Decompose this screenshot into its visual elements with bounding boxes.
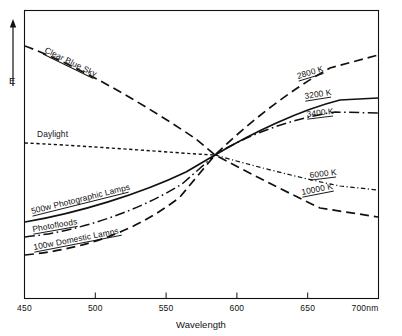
label-3200k-group: 3200 K [304, 87, 333, 101]
label-3400k-group: 3400 K [306, 106, 334, 119]
xtick-label-700: 700nm [352, 303, 379, 313]
xtick-label-600: 600 [230, 303, 245, 313]
xtick-label-550: 550 [159, 303, 174, 313]
curve-daylight-left [25, 143, 215, 155]
xtick-label-450: 450 [17, 303, 32, 313]
xtick-label-650: 650 [300, 303, 315, 313]
label-daylight: Daylight [37, 129, 69, 139]
label-clear-blue-sky: Clear Blue Sky [43, 45, 99, 79]
curve-6000k-right [215, 155, 378, 190]
label-clear-blue-sky-group: Clear Blue Sky [43, 45, 99, 79]
y-axis-label: E [9, 75, 15, 86]
x-axis-title: Wavelength [176, 319, 226, 330]
label-3400k: 3400 K [306, 106, 334, 119]
curve-domestic-lamps-2800k [25, 55, 378, 255]
label-daylight-group: Daylight [37, 129, 69, 139]
xtick-label-500: 500 [88, 303, 103, 313]
label-6000k: 6000 K [309, 167, 337, 180]
chart-canvas: E 450 500 550 600 650 700nm Wavelength [0, 0, 402, 336]
spectral-energy-chart: E 450 500 550 600 650 700nm Wavelength [0, 0, 402, 336]
label-10000k-group: 10000 K [300, 181, 334, 197]
label-6000k-group: 6000 K [309, 167, 337, 180]
x-axis-ticks [25, 293, 379, 299]
label-2800k: 2800 K [296, 63, 325, 81]
label-2800k-group: 2800 K [296, 63, 325, 81]
